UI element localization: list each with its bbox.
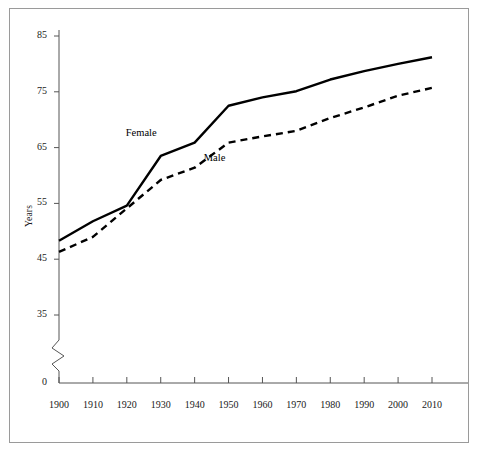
y-axis-break-zigzag [52,340,64,371]
series-line-male [59,88,432,252]
chart-figure: Years 8575655545350 19001910192019301940… [0,0,480,453]
axes-group [52,30,468,383]
series-line-female [59,57,432,241]
plot-area [0,0,480,453]
data-lines-group [59,57,432,252]
